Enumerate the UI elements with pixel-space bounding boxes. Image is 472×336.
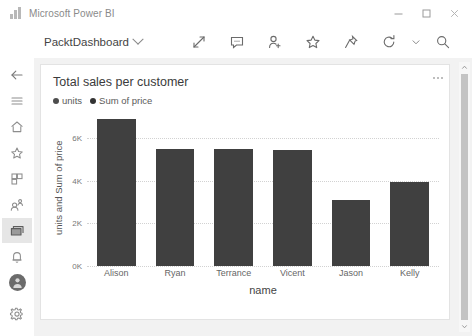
legend-item[interactable]: units bbox=[53, 95, 82, 106]
chevron-down-icon bbox=[132, 34, 143, 45]
plot: 0K2K4K6K AlisonRyanTerranceVicentJasonKe… bbox=[67, 108, 439, 290]
bar[interactable] bbox=[214, 149, 253, 266]
bar-series bbox=[87, 108, 439, 266]
scrollbar-thumb[interactable] bbox=[461, 74, 468, 320]
report-canvas: Total sales per customer unitsSum of pri… bbox=[34, 58, 472, 336]
command-bar-actions bbox=[180, 26, 462, 58]
bar[interactable] bbox=[273, 150, 312, 266]
comment-button[interactable] bbox=[218, 26, 256, 58]
refresh-button[interactable] bbox=[370, 26, 408, 58]
y-axis-ticks: 0K2K4K6K bbox=[67, 108, 85, 266]
dashboard-name-label: PacktDashboard bbox=[44, 36, 129, 48]
powerbi-bars-icon bbox=[10, 7, 21, 19]
sidebar-item-shared-with-me[interactable] bbox=[2, 192, 32, 217]
x-axis-tick-label: Vicent bbox=[263, 268, 322, 278]
chart-card[interactable]: Total sales per customer unitsSum of pri… bbox=[40, 64, 450, 320]
pin-button[interactable] bbox=[332, 26, 370, 58]
x-axis-tick-label: Ryan bbox=[146, 268, 205, 278]
avatar-image bbox=[9, 274, 26, 291]
sidebar-item-apps[interactable] bbox=[2, 166, 32, 191]
command-bar: PacktDashboard bbox=[0, 26, 472, 58]
sidebar-item-home[interactable] bbox=[2, 114, 32, 139]
dashboard-name-dropdown[interactable]: PacktDashboard bbox=[44, 36, 142, 48]
bar[interactable] bbox=[332, 200, 371, 266]
sidebar-item-dashboards[interactable] bbox=[2, 218, 32, 243]
sidebar-item-back[interactable] bbox=[2, 62, 32, 87]
y-axis-tick-label: 0K bbox=[72, 262, 82, 271]
legend-label: Sum of price bbox=[99, 95, 152, 106]
share-button[interactable] bbox=[256, 26, 294, 58]
y-axis-tick-label: 4K bbox=[72, 176, 82, 185]
sidebar-item-favorites[interactable] bbox=[2, 140, 32, 165]
chart-plot-area: units and Sum of price 0K2K4K6K AlisonRy… bbox=[51, 108, 439, 290]
x-axis-tick-label: Kelly bbox=[380, 268, 439, 278]
sidebar bbox=[0, 58, 34, 336]
x-axis-title: name bbox=[87, 284, 439, 296]
window-controls bbox=[384, 0, 468, 26]
ellipsis-icon[interactable] bbox=[433, 77, 443, 79]
search-button[interactable] bbox=[424, 26, 462, 58]
x-axis-ticks: AlisonRyanTerranceVicentJasonKelly bbox=[87, 268, 439, 278]
legend-swatch bbox=[90, 98, 96, 104]
y-axis-tick-label: 2K bbox=[72, 219, 82, 228]
legend-swatch bbox=[53, 98, 59, 104]
minimize-button[interactable] bbox=[384, 0, 412, 26]
y-axis-tick-label: 6K bbox=[72, 133, 82, 142]
avatar[interactable] bbox=[2, 270, 32, 295]
fullscreen-button[interactable] bbox=[180, 26, 218, 58]
close-button[interactable] bbox=[440, 0, 468, 26]
bar[interactable] bbox=[156, 149, 195, 266]
app-title: Microsoft Power BI bbox=[29, 8, 115, 19]
refresh-dropdown-button[interactable] bbox=[408, 26, 424, 58]
bar-slot bbox=[380, 108, 439, 266]
favorite-button[interactable] bbox=[294, 26, 332, 58]
maximize-button[interactable] bbox=[412, 0, 440, 26]
window-title-bar: Microsoft Power BI bbox=[0, 0, 472, 26]
sidebar-item-settings[interactable] bbox=[2, 301, 32, 326]
chevron-down-icon[interactable] bbox=[459, 321, 470, 332]
sidebar-item-notifications[interactable] bbox=[2, 244, 32, 269]
bar[interactable] bbox=[390, 182, 429, 266]
sidebar-item-menu[interactable] bbox=[2, 88, 32, 113]
legend-label: units bbox=[62, 95, 82, 106]
grid-area bbox=[87, 108, 439, 266]
bar-slot bbox=[146, 108, 205, 266]
bar-slot bbox=[322, 108, 381, 266]
y-axis-title: units and Sum of price bbox=[51, 108, 65, 268]
x-axis-tick-label: Jason bbox=[322, 268, 381, 278]
legend-item[interactable]: Sum of price bbox=[90, 95, 152, 106]
x-axis-tick-label: Alison bbox=[87, 268, 146, 278]
bar-slot bbox=[87, 108, 146, 266]
x-axis-tick-label: Terrance bbox=[204, 268, 263, 278]
bar-slot bbox=[204, 108, 263, 266]
bar[interactable] bbox=[97, 119, 136, 266]
canvas-scrollbar[interactable] bbox=[459, 62, 470, 332]
gridline bbox=[87, 266, 439, 267]
page-title: Total sales per customer bbox=[53, 75, 439, 89]
chart-legend: unitsSum of price bbox=[53, 95, 439, 106]
chevron-up-icon[interactable] bbox=[459, 62, 470, 73]
bar-slot bbox=[263, 108, 322, 266]
